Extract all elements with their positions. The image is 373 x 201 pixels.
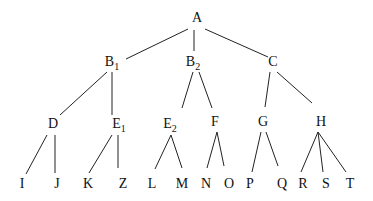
edge-e2-m [171, 135, 182, 168]
edge-d-i [26, 135, 47, 174]
node-r: R [298, 176, 308, 191]
edge-e2-l [155, 135, 171, 169]
node-t: T [346, 176, 355, 191]
edge-a-b1 [126, 29, 188, 59]
node-j: J [54, 176, 60, 191]
node-b1: B1 [105, 54, 119, 72]
node-e1: E1 [112, 116, 126, 134]
node-n: N [201, 176, 211, 191]
node-g: G [258, 114, 268, 129]
node-z: Z [119, 176, 128, 191]
node-k: K [83, 176, 93, 191]
edge-b2-e2 [182, 72, 193, 108]
node-q: Q [277, 176, 287, 191]
node-c: C [268, 54, 277, 69]
node-h: H [316, 114, 326, 129]
node-d: D [48, 116, 58, 131]
edge-g-q [266, 132, 278, 166]
tree-edges [26, 29, 346, 174]
node-o: O [224, 176, 234, 191]
node-l: L [148, 176, 157, 191]
node-a: A [192, 10, 203, 25]
node-p: P [246, 176, 254, 191]
node-f: F [211, 114, 219, 129]
edge-g-p [252, 132, 261, 172]
edge-c-g [265, 72, 270, 107]
edge-e1-k [89, 135, 112, 173]
edge-f-o [217, 132, 224, 166]
node-i: I [20, 176, 25, 191]
node-m: M [176, 176, 189, 191]
edge-h-r [301, 132, 318, 172]
edge-b1-d [60, 72, 107, 115]
tree-diagram: AB1B2CDE1E2FGHIJKZLMNOPQRST [0, 0, 373, 201]
edge-f-n [207, 132, 217, 168]
edge-c-h [277, 72, 312, 103]
node-b2: B2 [186, 54, 200, 72]
node-e2: E2 [163, 116, 177, 134]
edge-a-c [205, 29, 268, 57]
node-s: S [322, 176, 330, 191]
edge-b2-f [199, 72, 212, 108]
